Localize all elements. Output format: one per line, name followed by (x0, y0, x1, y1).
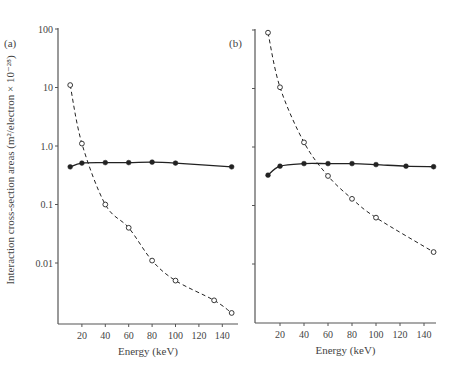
y-tick-label: 0.01 (36, 258, 54, 269)
panel-label: (a) (4, 37, 17, 50)
y-tick-label: 100 (38, 24, 53, 35)
open-circle-marker (302, 140, 307, 145)
x-tick-label: 60 (323, 329, 333, 340)
x-tick-label: 20 (77, 330, 87, 341)
x-axis-title: Energy (keV) (118, 345, 178, 358)
filled-circle-marker (103, 160, 108, 165)
y-tick-label: 10 (43, 82, 53, 93)
filled-circle-marker (173, 161, 178, 166)
x-tick-label: 120 (191, 330, 206, 341)
filled-circle-marker (266, 173, 271, 178)
dashed-curve (70, 85, 231, 313)
x-tick-label: 100 (369, 329, 384, 340)
filled-circle-marker (431, 164, 436, 169)
filled-circle-marker (302, 161, 307, 166)
panel-a: (a)100101.00.10.0120406080100120140Energ… (4, 24, 238, 359)
x-tick-label: 140 (417, 329, 432, 340)
filled-circle-marker (80, 161, 85, 166)
x-tick-label: 20 (275, 329, 285, 340)
x-tick-label: 40 (299, 329, 309, 340)
open-circle-marker (374, 215, 379, 220)
open-circle-marker (229, 311, 234, 316)
open-circle-marker (212, 298, 217, 303)
panel-b: (b)20406080100120140Energy (keV) (229, 29, 436, 357)
filled-circle-marker (126, 160, 131, 165)
filled-circle-marker (350, 161, 355, 166)
x-tick-label: 100 (168, 330, 183, 341)
filled-circle-marker (278, 164, 283, 169)
open-circle-marker (431, 250, 436, 255)
open-circle-marker (350, 196, 355, 201)
y-tick-label: 1.0 (41, 141, 54, 152)
filled-circle-marker (150, 160, 155, 165)
x-tick-label: 80 (147, 330, 157, 341)
open-circle-marker (278, 85, 283, 90)
y-axis-title: Interaction cross-section areas (m²/elec… (4, 55, 17, 285)
x-axis-title: Energy (keV) (316, 344, 376, 357)
filled-circle-marker (326, 161, 331, 166)
figure: Interaction cross-section areas (m²/elec… (0, 0, 452, 379)
y-tick-label: 0.1 (41, 199, 54, 210)
open-circle-marker (326, 174, 331, 179)
open-circle-marker (126, 225, 131, 230)
x-tick-label: 60 (124, 330, 134, 341)
filled-circle-marker (404, 164, 409, 169)
x-tick-label: 40 (100, 330, 110, 341)
filled-circle-marker (374, 162, 379, 167)
filled-circle-marker (68, 164, 73, 169)
x-tick-label: 120 (393, 329, 408, 340)
x-tick-label: 80 (347, 329, 357, 340)
open-circle-marker (266, 30, 271, 35)
open-circle-marker (103, 202, 108, 207)
open-circle-marker (150, 258, 155, 263)
dashed-curve (268, 33, 434, 252)
filled-circle-marker (229, 164, 234, 169)
panel-label: (b) (229, 37, 242, 50)
open-circle-marker (80, 141, 85, 146)
x-tick-label: 140 (215, 330, 230, 341)
open-circle-marker (173, 278, 178, 283)
open-circle-marker (68, 83, 73, 88)
